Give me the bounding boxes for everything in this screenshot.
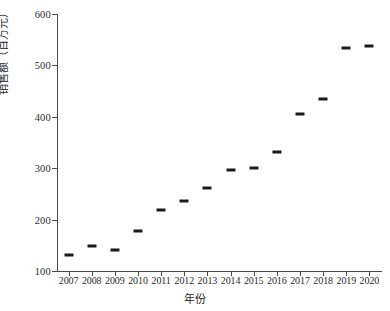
y-axis-tick bbox=[52, 168, 57, 169]
data-point bbox=[157, 208, 166, 211]
data-point bbox=[296, 112, 305, 115]
x-axis-tick-label: 2015 bbox=[244, 275, 264, 286]
data-point bbox=[319, 97, 328, 100]
data-point bbox=[365, 45, 374, 48]
y-axis-tick bbox=[52, 65, 57, 66]
x-axis-line bbox=[57, 271, 382, 272]
x-axis-tick-label: 2013 bbox=[198, 275, 218, 286]
data-point bbox=[110, 248, 119, 251]
x-axis-tick-label: 2018 bbox=[313, 275, 333, 286]
y-axis-tick-label: 300 bbox=[35, 163, 51, 174]
y-axis-tick bbox=[52, 117, 57, 118]
y-axis-tick-label: 400 bbox=[35, 111, 51, 122]
plot-area bbox=[57, 14, 381, 271]
x-axis-tick-label: 2007 bbox=[59, 275, 79, 286]
x-axis-tick-label: 2019 bbox=[336, 275, 356, 286]
y-axis-tick-label: 100 bbox=[35, 266, 51, 277]
x-axis-tick-label: 2012 bbox=[174, 275, 194, 286]
y-axis-line bbox=[57, 14, 58, 272]
x-axis-tick-label: 2020 bbox=[360, 275, 380, 286]
y-axis-tick-labels: 100200300400500600 bbox=[0, 14, 51, 272]
scatter-chart: 销售额（百万元） 100200300400500600 年份 200720082… bbox=[0, 0, 390, 311]
y-axis-tick-label: 600 bbox=[35, 9, 51, 20]
x-axis-title: 年份 bbox=[0, 290, 390, 306]
data-point bbox=[203, 186, 212, 189]
data-point bbox=[180, 200, 189, 203]
y-axis-tick bbox=[52, 220, 57, 221]
data-point bbox=[64, 253, 73, 256]
data-point bbox=[226, 169, 235, 172]
y-axis-tick bbox=[52, 14, 57, 15]
x-axis-tick-label: 2017 bbox=[290, 275, 310, 286]
data-point bbox=[342, 46, 351, 49]
x-axis-tick-label: 2008 bbox=[82, 275, 102, 286]
data-point bbox=[87, 245, 96, 248]
data-point bbox=[272, 150, 281, 153]
y-axis-tick bbox=[52, 271, 57, 272]
data-point bbox=[134, 230, 143, 233]
data-point bbox=[249, 166, 258, 169]
y-axis-tick-label: 500 bbox=[35, 60, 51, 71]
x-axis-tick-label: 2016 bbox=[267, 275, 287, 286]
x-axis-tick-label: 2014 bbox=[221, 275, 241, 286]
x-axis-tick-label: 2009 bbox=[105, 275, 125, 286]
x-axis-tick-label: 2011 bbox=[152, 275, 171, 286]
y-axis-tick-label: 200 bbox=[35, 214, 51, 225]
x-axis-tick-label: 2010 bbox=[128, 275, 148, 286]
